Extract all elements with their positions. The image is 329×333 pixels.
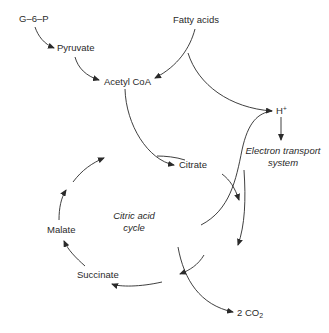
h-plus-charge: + (283, 105, 287, 112)
node-g6p: G–6–P (19, 14, 49, 24)
node-citrate: Citrate (179, 160, 207, 170)
arrow-malate-up (59, 190, 66, 220)
h-plus-base: H (276, 105, 283, 116)
arrow-cycle-to-hplus (201, 111, 272, 225)
ets-line-1: Electron transport (237, 146, 329, 156)
node-2-co2: 2 CO2 (237, 308, 263, 319)
node-malate: Malate (47, 225, 76, 235)
node-electron-transport-system: Electron transport system (237, 146, 329, 167)
arrow-citrate-down (222, 174, 239, 200)
arrow-g6p-to-pyruvate (35, 27, 54, 48)
cycle-line-1: Citric acid (108, 211, 160, 221)
label-citric-acid-cycle: Citric acid cycle (108, 211, 160, 232)
arrow-succinate-to-malate (64, 241, 85, 266)
node-fatty-acids: Fatty acids (173, 15, 219, 25)
node-acetyl-coa: Acetyl CoA (104, 77, 151, 87)
co2-base: 2 CO (237, 307, 259, 318)
arrow-cycle-to-co2 (178, 247, 233, 312)
node-succinate: Succinate (77, 270, 119, 280)
arrow-acetylcoa-to-citrate (125, 89, 174, 165)
arrow-cycle-to-succinate (180, 255, 204, 274)
cycle-line-2: cycle (108, 223, 160, 233)
ets-line-2: system (237, 158, 329, 168)
arrow-fattyacids-to-acetylcoa (155, 29, 195, 78)
arrow-pyruvate-to-acetylcoa (75, 57, 99, 80)
arrow-cycle-right-down (238, 170, 245, 245)
arrow-fattyacids-to-hplus (188, 53, 272, 111)
node-h-plus: H+ (276, 106, 287, 116)
co2-subscript: 2 (259, 312, 263, 319)
citric-acid-cycle-diagram: G–6–P Pyruvate Fatty acids Acetyl CoA H+… (0, 0, 329, 333)
node-pyruvate: Pyruvate (57, 43, 95, 53)
arrow-cycle-bottom-to-succinate (112, 282, 162, 286)
arrow-cycle-left-up (73, 158, 104, 182)
